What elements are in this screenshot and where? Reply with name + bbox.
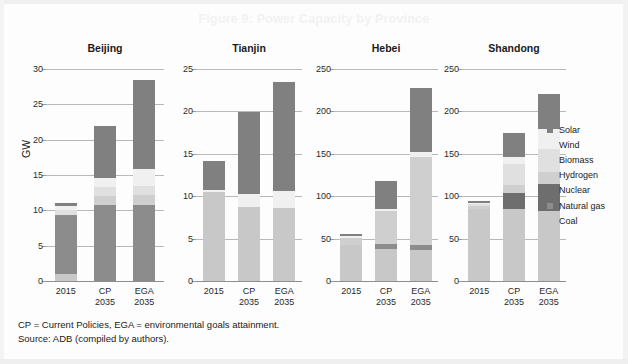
- bar-segment-biomass: [55, 210, 77, 214]
- bar-tianjin-ega-2035[interactable]: [273, 82, 295, 281]
- legend-item-solar[interactable]: Solar: [547, 122, 605, 137]
- y-tick-label: 30: [33, 64, 43, 74]
- gridline: [334, 69, 438, 70]
- bar-shandong-2015[interactable]: [468, 201, 490, 281]
- y-tick-label: 5: [188, 234, 193, 244]
- figure-footnote: CP = Current Policies, EGA = environment…: [18, 318, 279, 346]
- bar-segment-biomass: [503, 164, 525, 185]
- y-tick-label: 0: [454, 276, 459, 286]
- bar-hebei-cp-2035[interactable]: [375, 181, 397, 281]
- legend-label: Wind: [559, 140, 580, 150]
- y-tick-label: 25: [33, 99, 43, 109]
- legend-item-hydrogen[interactable]: Hydrogen: [547, 168, 605, 183]
- bar-segment-wind: [503, 157, 525, 164]
- legend-swatch-icon: [547, 142, 553, 148]
- x-tick-label: EGA2035: [531, 286, 566, 308]
- legend-label: Solar: [559, 125, 580, 135]
- gridline: [46, 69, 164, 70]
- legend-item-coal[interactable]: Coal: [547, 213, 605, 228]
- bar-segment-solar: [203, 161, 225, 190]
- bar-segment-solar: [375, 181, 397, 209]
- bar-segment-wind: [273, 191, 295, 208]
- bar-segment-coal: [503, 209, 525, 281]
- bar-segment-solar: [133, 80, 155, 169]
- bar-segment-hydrogen: [503, 185, 525, 193]
- bar-segment-hydrogen: [468, 206, 490, 209]
- bar-tianjin-cp-2035[interactable]: [238, 112, 260, 281]
- legend-label: Natural gas: [559, 201, 605, 211]
- bar-shandong-cp-2035[interactable]: [503, 133, 525, 281]
- gridline: [462, 69, 566, 70]
- x-tick-label: CP2035: [497, 286, 532, 308]
- bar-segment-coal: [410, 250, 432, 281]
- bar-segment-hydrogen: [410, 157, 432, 244]
- bar-segment-hydrogen: [340, 238, 362, 245]
- legend-item-wind[interactable]: Wind: [547, 137, 605, 152]
- bar-segment-coal: [55, 274, 77, 281]
- x-axis-line: [462, 281, 566, 282]
- y-tick-label: 250: [316, 64, 331, 74]
- y-tick-label: 0: [188, 276, 193, 286]
- x-tick-label: EGA2035: [267, 286, 302, 308]
- gridline: [196, 69, 302, 70]
- y-tick-label: 15: [183, 149, 193, 159]
- page-edge-left: [0, 0, 4, 364]
- x-axis-line: [196, 281, 302, 282]
- bar-segment-wind: [468, 203, 490, 204]
- chart-legend: SolarWindBiomassHydrogenNuclearNatural g…: [547, 122, 605, 228]
- bar-hebei-2015[interactable]: [340, 234, 362, 281]
- legend-label: Biomass: [559, 155, 594, 165]
- x-tick-label: 2015: [462, 286, 497, 297]
- legend-swatch-icon: [547, 172, 553, 178]
- bar-segment-natural-gas: [133, 205, 155, 281]
- bar-segment-wind: [55, 206, 77, 210]
- y-tick-label: 10: [33, 205, 43, 215]
- bar-segment-solar: [468, 201, 490, 203]
- y-tick-label: 100: [444, 191, 459, 201]
- x-tick-label: 2015: [46, 286, 85, 297]
- y-tick-label: 50: [321, 234, 331, 244]
- y-tick-label: 0: [326, 276, 331, 286]
- bar-segment-solar: [94, 126, 116, 178]
- y-tick-label: 200: [316, 106, 331, 116]
- x-tick-label: CP2035: [231, 286, 266, 308]
- y-tick-label: 150: [316, 149, 331, 159]
- bar-segment-wind: [203, 190, 225, 192]
- page-edge-top: [0, 0, 628, 4]
- legend-item-nuclear[interactable]: Nuclear: [547, 183, 605, 198]
- bar-segment-biomass: [94, 187, 116, 195]
- legend-swatch-icon: [547, 203, 553, 209]
- bar-segment-coal: [273, 208, 295, 281]
- bar-beijing-ega-2035[interactable]: [133, 80, 155, 281]
- bar-segment-wind: [375, 209, 397, 212]
- page-edge-bottom: [0, 359, 628, 364]
- bar-hebei-ega-2035[interactable]: [410, 88, 432, 281]
- y-tick-label: 25: [183, 64, 193, 74]
- y-tick-label: 150: [444, 149, 459, 159]
- bar-tianjin-2015[interactable]: [203, 161, 225, 281]
- bar-segment-natural-gas: [375, 244, 397, 249]
- bar-segment-coal: [203, 192, 225, 281]
- plot-area-tianjin: 05101520252015CP2035EGA2035: [196, 69, 302, 282]
- bar-segment-solar: [410, 88, 432, 152]
- x-tick-label: 2015: [196, 286, 231, 297]
- figure-title: Figure 9: Power Capacity by Province: [0, 12, 628, 26]
- bar-segment-wind: [133, 169, 155, 185]
- footnote-line-2: Source: ADB (compiled by authors).: [18, 332, 279, 346]
- panel-title-tianjin: Tianjin: [196, 42, 302, 54]
- bar-segment-wind: [238, 194, 260, 208]
- bar-segment-hydrogen: [133, 195, 155, 205]
- bar-beijing-cp-2035[interactable]: [94, 126, 116, 281]
- panel-title-hebei: Hebei: [334, 42, 438, 54]
- legend-item-biomass[interactable]: Biomass: [547, 152, 605, 167]
- bar-segment-natural-gas: [55, 215, 77, 274]
- bar-beijing-2015[interactable]: [55, 203, 77, 281]
- legend-item-natural-gas[interactable]: Natural gas: [547, 198, 605, 213]
- bar-segment-wind: [410, 152, 432, 157]
- bar-segment-biomass: [468, 204, 490, 206]
- legend-label: Hydrogen: [559, 170, 598, 180]
- y-tick-label: 15: [33, 170, 43, 180]
- bar-segment-coal: [238, 207, 260, 281]
- y-tick-label: 50: [449, 234, 459, 244]
- bar-segment-coal: [375, 249, 397, 281]
